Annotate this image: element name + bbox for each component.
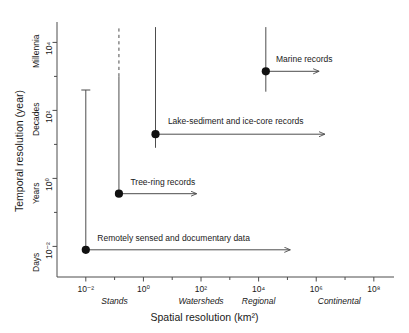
- y-category-label-3: Millennia: [31, 35, 41, 69]
- x-category-label-2: Regional: [219, 296, 299, 306]
- y-category-label-0: Days: [31, 253, 41, 272]
- x-category-label-3: Continental: [299, 296, 379, 306]
- y-category-label-2: Decades: [31, 103, 41, 137]
- x-tick-label-2: 10²: [181, 284, 221, 294]
- y-tick-label-3: 10⁴: [44, 42, 54, 55]
- series-label-3: Marine records: [276, 54, 333, 64]
- y-category-label-1: Years: [31, 183, 41, 204]
- y-tick-label-1: 10⁰: [44, 179, 54, 192]
- x-category-label-0: Stands: [75, 296, 155, 306]
- series-label-1: Tree-ring records: [130, 177, 195, 187]
- x-tick-label-4: 10⁶: [296, 284, 336, 294]
- series-label-0: Remotely sensed and documentary data: [97, 233, 250, 243]
- y-axis-title: Temporal resolution (year): [13, 66, 25, 236]
- x-axis-title: Spatial resolution (km²): [0, 311, 409, 323]
- y-tick-label-2: 10²: [44, 111, 54, 123]
- x-tick-label-3: 10⁴: [239, 284, 279, 294]
- series-label-2: Lake-sediment and ice-core records: [168, 116, 304, 126]
- data-point-group-2: [151, 27, 324, 148]
- data-point-group-0: [81, 90, 290, 254]
- y-tick-label-0: 10⁻²: [44, 243, 54, 260]
- chart-figure: 10⁻²10⁰10²10⁴10⁶10⁸StandsWatershedsRegio…: [0, 0, 409, 333]
- x-tick-label-5: 10⁸: [354, 284, 394, 294]
- x-tick-label-1: 10⁰: [123, 284, 163, 294]
- x-tick-label-0: 10⁻²: [66, 284, 106, 294]
